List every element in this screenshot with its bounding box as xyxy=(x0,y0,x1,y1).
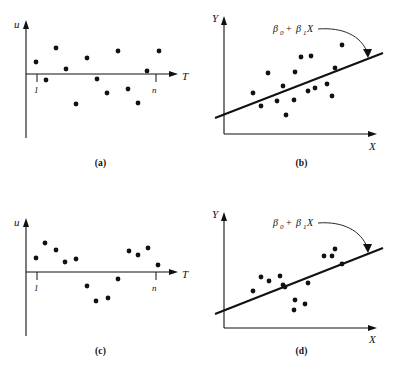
panel-b: Y X β 0 + β 1 X xyxy=(201,0,402,188)
panel-a-tick-label-last: n xyxy=(152,85,157,95)
data-point xyxy=(94,299,99,304)
data-point xyxy=(63,260,68,265)
panel-b-caption: (b) xyxy=(201,158,402,168)
panel-c-caption: (c) xyxy=(0,346,201,356)
data-point xyxy=(251,91,256,96)
panel-b-equation-operator: + xyxy=(286,23,292,34)
data-point xyxy=(267,279,272,284)
data-point xyxy=(292,308,297,313)
panel-d-x-axis-label: X xyxy=(368,333,377,345)
data-point xyxy=(127,249,132,254)
data-point xyxy=(156,263,161,268)
data-point xyxy=(95,77,100,82)
panel-b-x-arrowhead xyxy=(368,131,377,137)
panel-b-equation-sub0: 0 xyxy=(280,29,284,37)
data-point xyxy=(330,94,335,99)
data-point xyxy=(293,70,298,75)
data-point xyxy=(309,54,314,59)
data-point xyxy=(306,281,311,286)
data-point xyxy=(74,257,79,262)
data-point xyxy=(333,66,338,71)
panel-b-annotation-arrow xyxy=(318,29,367,52)
data-point xyxy=(105,91,110,96)
data-point xyxy=(259,275,264,280)
panel-a-x-axis-label: T xyxy=(182,70,189,82)
data-point xyxy=(292,98,297,103)
data-point xyxy=(330,254,335,259)
data-point xyxy=(106,296,111,301)
data-point xyxy=(306,89,311,94)
data-point xyxy=(299,55,304,60)
data-point xyxy=(44,78,49,83)
data-point xyxy=(259,104,264,109)
panel-a-points xyxy=(34,46,162,107)
panel-d-equation-operator: + xyxy=(286,217,292,228)
data-point xyxy=(275,99,280,104)
panel-c-x-arrowhead xyxy=(169,269,178,275)
data-point xyxy=(54,248,59,253)
panel-a-caption: (a) xyxy=(0,158,201,168)
panel-a-plot: u T 1 n xyxy=(0,0,201,160)
panel-b-equation-beta1: β xyxy=(295,23,301,34)
data-point xyxy=(126,87,131,92)
data-point xyxy=(145,69,150,74)
data-point xyxy=(283,285,288,290)
panel-d-caption: (d) xyxy=(201,346,402,356)
panel-c-y-arrowhead xyxy=(23,218,29,227)
panel-c-y-axis-label: u xyxy=(14,216,20,228)
data-point xyxy=(251,289,256,294)
panel-a-x-arrowhead xyxy=(169,71,178,77)
data-point xyxy=(278,274,283,279)
panel-b-regression-line xyxy=(215,53,383,118)
panel-d-annotation-arrowhead xyxy=(363,244,372,253)
data-point xyxy=(136,253,141,258)
panel-d-points xyxy=(251,247,345,313)
data-point xyxy=(281,84,286,89)
panel-b-equation-beta0: β xyxy=(272,23,278,34)
panel-d-equation-sub0: 0 xyxy=(280,223,284,231)
data-point xyxy=(266,71,271,76)
data-point xyxy=(34,256,39,261)
panel-d-plot: Y X β 0 + β 1 X xyxy=(201,188,402,348)
data-point xyxy=(64,67,69,72)
panel-c-tick-label-first: 1 xyxy=(34,283,39,293)
data-point xyxy=(313,86,318,91)
data-point xyxy=(340,262,345,267)
panel-a-y-arrowhead xyxy=(23,20,29,29)
data-point xyxy=(116,49,121,54)
data-point xyxy=(322,254,327,259)
data-point xyxy=(325,82,330,87)
data-point xyxy=(340,43,345,48)
panel-d: Y X β 0 + β 1 X xyxy=(201,188,402,376)
data-point xyxy=(284,113,289,118)
panel-b-equation-annotation: β 0 + β 1 X xyxy=(272,23,314,37)
data-point xyxy=(116,277,121,282)
autocorrelation-figure: u T 1 n (a) xyxy=(0,0,402,376)
panel-d-y-arrowhead xyxy=(221,212,227,221)
panel-b-annotation-arrowhead xyxy=(363,49,372,58)
panel-b-points xyxy=(251,43,345,118)
panel-b-y-axis-label: Y xyxy=(212,12,220,24)
data-point xyxy=(136,101,141,106)
panel-c: u T 1 n (c) xyxy=(0,188,201,376)
panel-d-equation-beta0: β xyxy=(272,217,278,228)
data-point xyxy=(34,60,39,65)
panel-d-equation-beta1: β xyxy=(295,217,301,228)
data-point xyxy=(54,46,59,51)
panel-d-regression-line xyxy=(215,248,383,314)
data-point xyxy=(293,298,298,303)
panel-d-annotation-arrow xyxy=(318,223,367,247)
data-point xyxy=(85,284,90,289)
panel-b-equation-variable: X xyxy=(306,23,314,34)
panel-d-x-arrowhead xyxy=(368,325,377,331)
panel-b-y-arrowhead xyxy=(221,16,227,25)
panel-a-tick-label-first: 1 xyxy=(34,85,39,95)
data-point xyxy=(85,56,90,61)
data-point xyxy=(43,241,48,246)
panel-b-x-axis-label: X xyxy=(368,140,377,152)
panel-d-equation-annotation: β 0 + β 1 X xyxy=(272,217,314,231)
data-point xyxy=(146,246,151,251)
panel-c-tick-label-last: n xyxy=(152,283,157,293)
panel-c-x-axis-label: T xyxy=(182,268,189,280)
panel-a: u T 1 n (a) xyxy=(0,0,201,188)
